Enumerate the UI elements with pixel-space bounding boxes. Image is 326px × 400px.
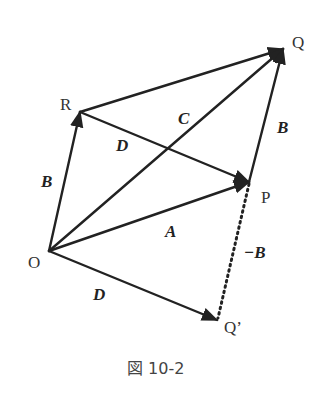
figure-caption: 図 10-2: [127, 359, 184, 378]
point-label-Q: Q: [292, 33, 304, 52]
vector-RQ: [80, 49, 283, 112]
vector-OQprime: [49, 251, 217, 320]
vector-OR: [49, 112, 80, 251]
vector-label-minus-B: −B: [244, 243, 266, 262]
point-label-R: R: [60, 95, 72, 114]
vector-label-D-mid: D: [115, 136, 128, 155]
vector-label-B-left: B: [40, 172, 52, 191]
vector-label-A: A: [164, 222, 176, 241]
point-label-P: P: [261, 188, 270, 207]
vector-OP: [49, 182, 249, 251]
vector-RP: [80, 112, 249, 182]
vector-PQ: [249, 49, 283, 182]
vector-OQ: [49, 49, 283, 251]
point-label-O: O: [28, 253, 40, 272]
vector-diagram: O R Q P Q’ B D C B A −B D 図 10-2: [0, 0, 326, 400]
vector-label-B-right: B: [276, 118, 288, 137]
vector-label-D-bottom: D: [92, 285, 105, 304]
vector-label-C: C: [178, 109, 190, 128]
point-label-Qprime: Q’: [224, 318, 242, 337]
